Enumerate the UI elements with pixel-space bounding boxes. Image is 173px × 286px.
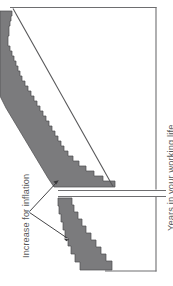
upper-panel-steps (0, 11, 115, 187)
panel-divider (58, 191, 166, 197)
figure-container: Increase for inflation Years in your wor… (0, 0, 173, 286)
inflation-annotation-label: Increase for inflation (21, 174, 31, 258)
lower-panel-steps (58, 198, 112, 270)
x-axis-label: Years in your working life (165, 125, 173, 231)
